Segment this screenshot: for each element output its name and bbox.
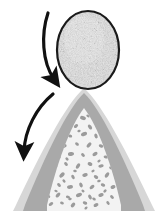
figure-root <box>0 0 160 221</box>
egg-highlight <box>64 16 104 64</box>
diagram-canvas <box>0 0 160 221</box>
